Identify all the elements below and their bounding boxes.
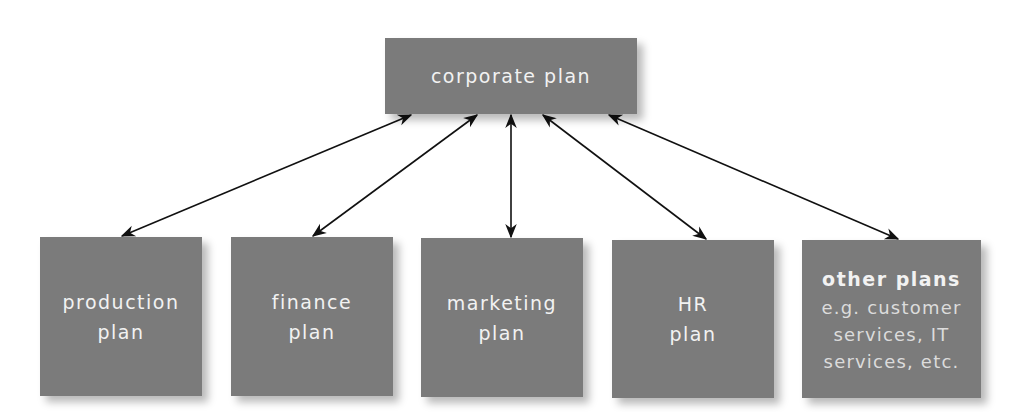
arrow-finance [313,115,477,236]
hr-plan-box: HR plan [612,240,774,398]
finance-plan-label-line1: finance [272,287,352,317]
arrow-other [609,115,898,239]
production-plan-label-line2: plan [97,317,144,347]
other-plans-desc-line1: e.g. customer [821,294,961,321]
corporate-plan-box: corporate plan [385,38,637,114]
hr-plan-label-line2: plan [669,319,716,349]
other-plans-box: other plans e.g. customer services, IT s… [802,240,981,398]
finance-plan-label-line2: plan [288,317,335,347]
corporate-plan-label: corporate plan [431,61,591,91]
marketing-plan-box: marketing plan [421,238,583,397]
arrow-hr [543,115,706,239]
other-plans-title: other plans [822,264,961,294]
hr-plan-label-line1: HR [678,289,709,319]
marketing-plan-label-line1: marketing [447,288,557,318]
marketing-plan-label-line2: plan [478,318,525,348]
finance-plan-box: finance plan [231,237,393,396]
other-plans-desc-line3: services, etc. [824,348,960,375]
production-plan-label-line1: production [62,287,179,317]
production-plan-box: production plan [40,237,202,396]
other-plans-desc-line2: services, IT [833,321,949,348]
arrow-production [122,115,411,236]
